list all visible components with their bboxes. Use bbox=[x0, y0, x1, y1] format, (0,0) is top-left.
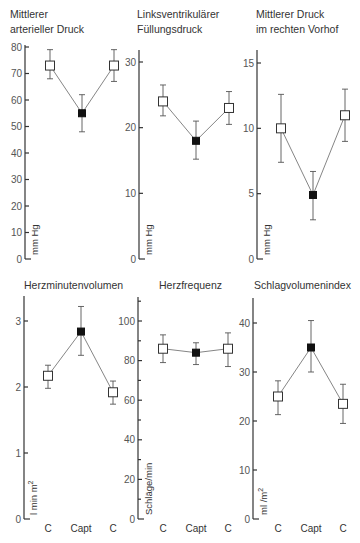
y-tick-label: 10 bbox=[243, 123, 255, 134]
figure-canvas: Mittlererarterieller Druck01020304050607… bbox=[0, 0, 360, 543]
y-tick-label: 40 bbox=[11, 148, 23, 159]
panel-title: Mittlerer Druck bbox=[256, 8, 325, 20]
y-axis-label: l min m2 bbox=[27, 480, 39, 515]
filled-square-marker bbox=[310, 191, 317, 198]
y-tick-label: 0 bbox=[130, 254, 136, 265]
panel-title: Mittlerer bbox=[10, 8, 48, 20]
y-tick-label: 30 bbox=[239, 367, 251, 378]
x-category-label: C bbox=[339, 523, 346, 534]
y-tick-label: 70 bbox=[11, 68, 23, 79]
series-line bbox=[48, 332, 113, 393]
series-line bbox=[278, 348, 343, 404]
panel-mean-arterial-pressure: Mittlererarterieller Druck01020304050607… bbox=[10, 8, 119, 265]
y-tick-label: 80 bbox=[124, 355, 136, 366]
open-square-marker bbox=[224, 344, 233, 353]
y-tick-label: 60 bbox=[124, 395, 136, 406]
y-tick-label: 30 bbox=[125, 57, 137, 68]
panel-title: Füllungsdruck bbox=[137, 23, 203, 35]
filled-square-marker bbox=[193, 137, 200, 144]
open-square-marker bbox=[159, 344, 168, 353]
y-tick-label: 2 bbox=[15, 382, 21, 393]
y-tick-label: 0 bbox=[15, 514, 21, 525]
y-tick-label: 60 bbox=[11, 95, 23, 106]
panel-cardiac-index: Herzminutenvolumen0123l min m2CCaptC bbox=[15, 279, 123, 534]
y-tick-label: 20 bbox=[11, 201, 23, 212]
open-square-marker bbox=[44, 371, 53, 380]
y-tick-label: 0 bbox=[129, 514, 135, 525]
panel-title: Herzminutenvolumen bbox=[24, 279, 123, 291]
panel-stroke-volume-index: Schlagvolumenindex010203040ml /m2CCaptC bbox=[239, 279, 352, 534]
open-square-marker bbox=[225, 103, 234, 112]
panel-heart-rate: Herzfrequenz020406080100Schläge/minCCapt… bbox=[118, 279, 232, 534]
filled-square-marker bbox=[308, 344, 315, 351]
open-square-marker bbox=[277, 124, 286, 133]
x-category-label: Capt bbox=[70, 523, 91, 534]
y-tick-label: 15 bbox=[243, 58, 255, 69]
open-square-marker bbox=[109, 388, 118, 397]
y-tick-label: 20 bbox=[125, 122, 137, 133]
panel-lv-filling-pressure: LinksventrikulärerFüllungsdruck0102030mm… bbox=[125, 8, 234, 265]
y-tick-label: 3 bbox=[15, 316, 21, 327]
y-tick-label: 0 bbox=[248, 254, 254, 265]
filled-square-marker bbox=[78, 328, 85, 335]
y-tick-label: 10 bbox=[11, 227, 23, 238]
open-square-marker bbox=[341, 111, 350, 120]
y-tick-label: 0 bbox=[244, 514, 250, 525]
x-category-label: C bbox=[224, 523, 231, 534]
y-tick-label: 40 bbox=[124, 434, 136, 445]
y-axis-label: Schläge/min bbox=[143, 463, 154, 515]
x-category-label: Capt bbox=[300, 523, 321, 534]
y-tick-label: 80 bbox=[11, 42, 23, 53]
panel-title: im rechten Vorhof bbox=[256, 23, 338, 35]
open-square-marker bbox=[110, 61, 119, 70]
x-category-label: C bbox=[159, 523, 166, 534]
y-tick-label: 50 bbox=[11, 121, 23, 132]
open-square-marker bbox=[159, 97, 168, 106]
filled-square-marker bbox=[193, 349, 200, 356]
y-tick-label: 20 bbox=[239, 416, 251, 427]
y-tick-label: 100 bbox=[118, 316, 135, 327]
y-tick-label: 1 bbox=[15, 448, 21, 459]
panel-title: Linksventrikulärer bbox=[137, 8, 220, 20]
y-tick-label: 30 bbox=[11, 174, 23, 185]
x-category-label: C bbox=[109, 523, 116, 534]
y-tick-label: 0 bbox=[16, 254, 22, 265]
panel-title: arterieller Druck bbox=[10, 23, 85, 35]
y-axis-label: mm Hg bbox=[29, 224, 40, 255]
panel-title: Schlagvolumenindex bbox=[254, 279, 352, 291]
open-square-marker bbox=[46, 61, 55, 70]
open-square-marker bbox=[274, 392, 283, 401]
y-tick-label: 20 bbox=[124, 474, 136, 485]
y-tick-label: 10 bbox=[125, 188, 137, 199]
y-tick-label: 10 bbox=[239, 465, 251, 476]
y-tick-label: 5 bbox=[248, 188, 254, 199]
y-axis-label: mm Hg bbox=[143, 224, 154, 255]
x-category-label: Capt bbox=[185, 523, 206, 534]
x-category-label: C bbox=[274, 523, 281, 534]
panel-title: Herzfrequenz bbox=[159, 279, 222, 291]
open-square-marker bbox=[339, 399, 348, 408]
x-category-label: C bbox=[44, 523, 51, 534]
panel-right-atrial-pressure: Mittlerer Druckim rechten Vorhof051015mm… bbox=[243, 8, 350, 265]
y-axis-label: mm Hg bbox=[261, 224, 272, 255]
y-tick-label: 40 bbox=[239, 318, 251, 329]
y-axis-label: ml /m2 bbox=[257, 488, 269, 515]
filled-square-marker bbox=[79, 110, 86, 117]
